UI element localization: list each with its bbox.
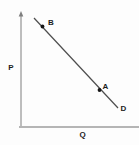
chart-canvas: P Q B A D [0, 0, 139, 145]
point-a-marker [98, 88, 102, 92]
point-a-label: A [103, 82, 109, 91]
demand-curve-figure: P Q B A D [0, 0, 139, 145]
demand-line [34, 18, 118, 108]
y-axis-arrowhead-icon [19, 11, 24, 17]
x-axis-label: Q [79, 130, 85, 139]
curve-label-d: D [121, 104, 127, 113]
point-b-marker [41, 25, 45, 29]
point-b-label: B [48, 18, 54, 27]
y-axis-label: P [8, 63, 14, 72]
